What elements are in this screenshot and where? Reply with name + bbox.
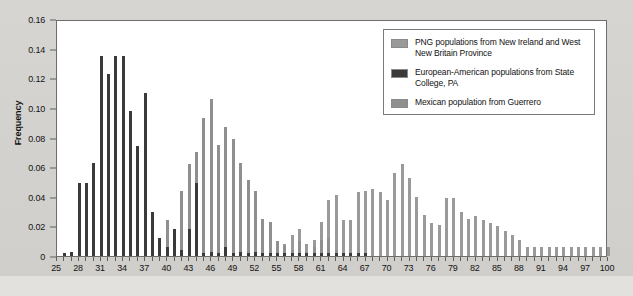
chart-bar <box>180 191 183 256</box>
x-axis-tick-mark <box>482 257 483 261</box>
chart-bar <box>599 247 602 256</box>
chart-bar <box>114 56 117 256</box>
x-axis-tick-mark <box>379 257 380 261</box>
x-axis-tick-mark <box>467 257 468 261</box>
x-axis-tick-mark <box>475 257 476 261</box>
chart-bar <box>518 240 521 256</box>
x-axis-tick-mark <box>511 257 512 261</box>
chart-bar <box>158 238 161 256</box>
legend-item-label: European-American populations from State… <box>415 67 587 88</box>
x-axis-tick-label: 94 <box>558 263 568 273</box>
x-axis-tick-mark <box>445 257 446 261</box>
x-axis-tick-mark <box>372 257 373 261</box>
x-axis-tick-mark <box>78 257 79 261</box>
x-axis-tick-mark <box>453 257 454 261</box>
chart-bar <box>540 247 543 256</box>
x-axis-tick-label: 61 <box>316 263 326 273</box>
x-axis-tick-label: 76 <box>426 263 436 273</box>
x-axis-tick-mark <box>409 257 410 261</box>
x-axis-tick-label: 55 <box>272 263 282 273</box>
chart-bar <box>474 216 477 256</box>
x-axis-tick-label: 70 <box>382 263 392 273</box>
chart-bar <box>357 253 360 256</box>
x-axis-tick-mark <box>541 257 542 261</box>
x-axis-tick-mark <box>313 257 314 261</box>
chart-bar <box>438 225 441 256</box>
legend-item: European-American populations from State… <box>391 67 587 88</box>
x-axis-tick-mark <box>291 257 292 261</box>
x-axis-tick-label: 58 <box>294 263 304 273</box>
x-axis-tick-label: 67 <box>360 263 370 273</box>
chart-bar <box>298 253 301 256</box>
x-axis-tick-mark <box>548 257 549 261</box>
chart-bar <box>269 222 272 256</box>
chart-bar <box>217 145 220 256</box>
x-axis-tick-label: 52 <box>250 263 260 273</box>
chart-bar <box>261 253 264 256</box>
legend-item-label: PNG populations from New Ireland and Wes… <box>415 37 587 58</box>
x-axis-tick-label: 88 <box>514 263 524 273</box>
chart-bar <box>393 173 396 256</box>
x-axis-tick-label: 43 <box>183 263 193 273</box>
chart-bar <box>136 146 139 256</box>
x-axis-tick-mark <box>63 257 64 261</box>
chart-bar <box>467 219 470 256</box>
figure: Frequency 00.020.040.060.080.100.120.140… <box>0 0 633 296</box>
x-axis-tick-mark <box>196 257 197 261</box>
x-axis-tick-label: 49 <box>228 263 238 273</box>
x-axis-tick-mark <box>438 257 439 261</box>
chart-bar <box>247 180 250 256</box>
chart-bar <box>180 250 183 256</box>
y-axis: Frequency 00.020.040.060.080.100.120.140… <box>0 0 56 258</box>
x-axis-tick-label: 91 <box>536 263 546 273</box>
chart-bar <box>320 253 323 256</box>
chart-bar <box>122 56 125 256</box>
x-axis-tick-mark <box>328 257 329 261</box>
chart-bar <box>504 231 507 256</box>
chart-bar <box>349 253 352 256</box>
x-axis-tick-mark <box>600 257 601 261</box>
x-axis-tick-mark <box>416 257 417 261</box>
chart-bar <box>342 253 345 256</box>
x-axis-tick-mark <box>188 257 189 261</box>
chart-bar <box>129 111 132 256</box>
chart-bar <box>335 253 338 256</box>
chart-bar <box>460 212 463 256</box>
chart-bar <box>577 247 580 256</box>
x-axis-tick-mark <box>284 257 285 261</box>
chart-bar <box>335 195 338 256</box>
x-axis-tick-mark <box>159 257 160 261</box>
chart-bar <box>210 252 213 256</box>
x-axis-tick-mark <box>225 257 226 261</box>
x-axis-tick-label: 25 <box>51 263 61 273</box>
x-axis-tick-mark <box>181 257 182 261</box>
x-axis-tick-mark <box>166 257 167 261</box>
y-axis-tick-label: 0.10 <box>28 104 45 114</box>
y-axis-tick-label: 0 <box>40 252 45 262</box>
x-axis-tick-mark <box>56 257 57 261</box>
legend-item: Mexican population from Guerrero <box>391 97 587 108</box>
x-axis-tick-label: 28 <box>73 263 83 273</box>
x-axis-tick-label: 37 <box>139 263 149 273</box>
chart-bar <box>327 253 330 256</box>
y-axis-tick-label: 0.06 <box>28 163 45 173</box>
x-axis-tick-label: 46 <box>205 263 215 273</box>
x-axis-tick-mark <box>365 257 366 261</box>
y-axis-tick-label: 0.08 <box>28 134 45 144</box>
legend-item-label: Mexican population from Guerrero <box>415 97 541 108</box>
x-axis-tick-mark <box>203 257 204 261</box>
x-axis-tick-mark <box>592 257 593 261</box>
chart-bar <box>305 253 308 256</box>
chart-bar <box>415 197 418 256</box>
x-axis-tick-mark <box>210 257 211 261</box>
x-axis-tick-mark <box>387 257 388 261</box>
chart-bar <box>408 178 411 257</box>
x-axis-tick-mark <box>526 257 527 261</box>
x-axis-tick-label: 100 <box>600 263 614 273</box>
chart-bar <box>232 139 235 256</box>
chart-bar <box>254 191 257 256</box>
x-axis-tick-label: 73 <box>404 263 414 273</box>
chart-bar <box>92 163 95 256</box>
chart-bar <box>482 220 485 256</box>
chart-bar <box>349 220 352 256</box>
